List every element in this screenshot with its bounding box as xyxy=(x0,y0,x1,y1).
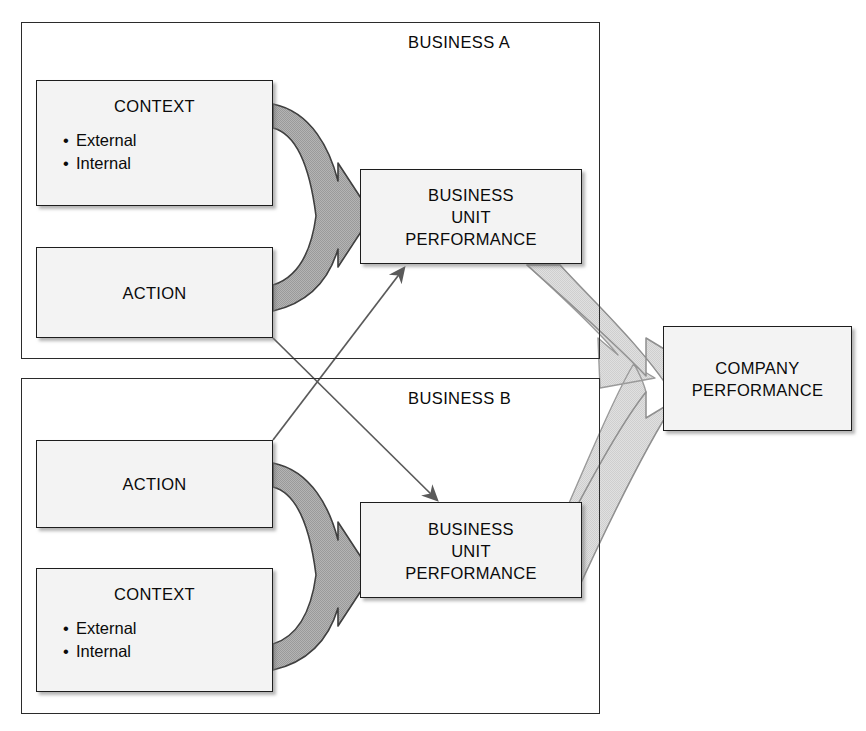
bup-a-line-3: PERFORMANCE xyxy=(361,229,581,251)
action-box-business-b[interactable]: ACTION xyxy=(36,440,273,528)
context-a-bullets: •External •Internal xyxy=(63,129,137,176)
context-b-bullets: •External •Internal xyxy=(63,617,137,664)
bup-b-line-2: UNIT xyxy=(361,541,581,563)
context-a-bullet-1: •Internal xyxy=(63,152,137,175)
bup-a-line-2: UNIT xyxy=(361,207,581,229)
company-performance-box[interactable]: COMPANY PERFORMANCE xyxy=(663,326,852,431)
context-a-title: CONTEXT xyxy=(37,97,272,116)
company-line-1: COMPANY xyxy=(664,358,851,380)
bup-a-lines: BUSINESS UNIT PERFORMANCE xyxy=(361,185,581,250)
context-b-bullet-1: •Internal xyxy=(63,640,137,663)
business-unit-performance-box-b[interactable]: BUSINESS UNIT PERFORMANCE xyxy=(360,502,582,598)
bup-b-lines: BUSINESS UNIT PERFORMANCE xyxy=(361,519,581,584)
bup-b-line-3: PERFORMANCE xyxy=(361,563,581,585)
action-a-title: ACTION xyxy=(37,284,272,303)
context-b-title: CONTEXT xyxy=(37,585,272,604)
context-box-business-a[interactable]: CONTEXT •External •Internal xyxy=(36,80,273,206)
bup-a-line-1: BUSINESS xyxy=(361,185,581,207)
business-b-label: BUSINESS B xyxy=(408,389,511,408)
context-b-bullet-0: •External xyxy=(63,617,137,640)
diagram-canvas: BUSINESS A CONTEXT •External •Internal A… xyxy=(0,0,866,731)
context-box-business-b[interactable]: CONTEXT •External •Internal xyxy=(36,568,273,692)
business-a-label: BUSINESS A xyxy=(408,33,510,52)
action-b-title: ACTION xyxy=(37,475,272,494)
business-unit-performance-box-a[interactable]: BUSINESS UNIT PERFORMANCE xyxy=(360,169,582,264)
context-a-bullet-0: •External xyxy=(63,129,137,152)
action-box-business-a[interactable]: ACTION xyxy=(36,247,273,338)
company-line-2: PERFORMANCE xyxy=(664,380,851,402)
bup-b-line-1: BUSINESS xyxy=(361,519,581,541)
company-performance-lines: COMPANY PERFORMANCE xyxy=(664,358,851,402)
